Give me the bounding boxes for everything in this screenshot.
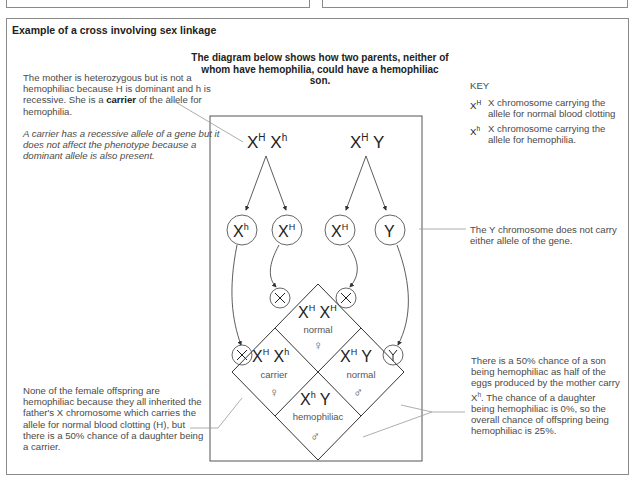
svg-text:normal: normal (346, 369, 375, 380)
svg-text:Xh Y: Xh Y (300, 390, 331, 408)
cross-diagram: XH Xh XH Y Xh XH XH Y (0, 0, 631, 478)
svg-text:♀: ♀ (269, 385, 279, 400)
mother-genotype: XH Xh (247, 132, 287, 152)
father-genotype: XH Y (350, 132, 384, 152)
svg-text:carrier: carrier (261, 369, 288, 380)
svg-text:normal: normal (303, 324, 332, 335)
svg-text:♀: ♀ (313, 338, 323, 353)
svg-text:hemophiliac: hemophiliac (293, 411, 344, 422)
svg-text:♂: ♂ (310, 429, 320, 444)
svg-text:XH Y: XH Y (340, 347, 372, 365)
offspring-genotype: XH XH (298, 303, 337, 321)
svg-text:Y: Y (384, 223, 395, 240)
svg-text:♂: ♂ (353, 385, 363, 400)
svg-text:XH Xh: XH Xh (252, 347, 289, 365)
